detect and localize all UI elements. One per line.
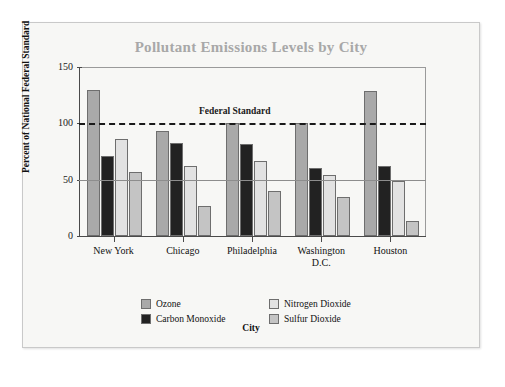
bar: [364, 91, 377, 236]
chart-title: Pollutant Emissions Levels by City: [23, 39, 479, 56]
plot-area: [79, 67, 426, 237]
x-tick-mark: [321, 237, 322, 242]
bar: [101, 156, 114, 236]
legend-swatch-carbon-monoxide: [141, 314, 151, 324]
legend-item-carbon-monoxide: Carbon Monoxide: [141, 314, 269, 324]
legend-swatch-sulfur-dioxide: [269, 314, 279, 324]
legend-item-sulfur-dioxide: Sulfur Dioxide: [269, 314, 341, 324]
bar: [129, 172, 142, 236]
grid-line: [79, 180, 426, 181]
bar: [323, 175, 336, 236]
y-tick-mark: [77, 236, 82, 237]
legend-label-sulfur-dioxide: Sulfur Dioxide: [284, 314, 341, 324]
bar: [115, 139, 128, 236]
legend-label-nitrogen-dioxide: Nitrogen Dioxide: [284, 299, 351, 309]
bar: [406, 221, 419, 236]
bar: [184, 166, 197, 236]
bar: [309, 168, 322, 236]
chart-panel: Pollutant Emissions Levels by City 05010…: [22, 22, 480, 348]
bar: [392, 181, 405, 236]
legend-swatch-ozone: [141, 299, 151, 309]
bar: [337, 197, 350, 236]
legend-label-ozone: Ozone: [156, 299, 181, 309]
x-tick-mark: [183, 237, 184, 242]
bar: [156, 131, 169, 236]
bar: [254, 161, 267, 236]
bar: [87, 90, 100, 236]
legend-item-ozone: Ozone: [141, 299, 269, 309]
bar: [268, 191, 281, 236]
y-tick-label: 150: [47, 61, 73, 72]
legend-row: Ozone Nitrogen Dioxide: [141, 299, 391, 309]
x-tick-label-line: D.C.: [276, 257, 366, 269]
y-tick-mark: [77, 67, 82, 68]
y-tick-label: 50: [47, 174, 73, 185]
bar: [378, 166, 391, 236]
y-axis-label: Percent of National Federal Standard: [21, 21, 31, 173]
x-tick-mark: [252, 237, 253, 242]
y-tick-label: 0: [47, 230, 73, 241]
legend-swatch-nitrogen-dioxide: [269, 299, 279, 309]
y-tick-label: 100: [47, 117, 73, 128]
x-tick-label-line: Houston: [345, 245, 435, 257]
x-tick-mark: [390, 237, 391, 242]
legend-row: Carbon Monoxide Sulfur Dioxide: [141, 314, 391, 324]
legend-label-carbon-monoxide: Carbon Monoxide: [156, 314, 225, 324]
bar: [170, 143, 183, 237]
x-tick-mark: [114, 237, 115, 242]
federal-standard-line: [79, 123, 426, 125]
federal-standard-label: Federal Standard: [199, 106, 271, 116]
legend-item-nitrogen-dioxide: Nitrogen Dioxide: [269, 299, 351, 309]
bar: [240, 144, 253, 236]
x-tick-label: Houston: [345, 245, 435, 257]
chart-legend: Ozone Nitrogen Dioxide Carbon Monoxide S…: [141, 299, 391, 329]
bar: [198, 206, 211, 236]
